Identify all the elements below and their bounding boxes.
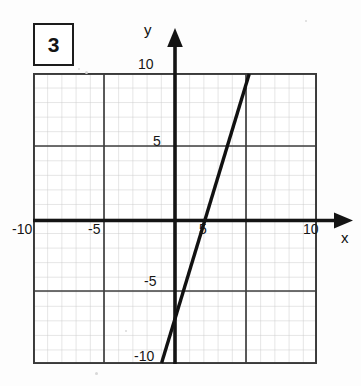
x-tick-label-10: 10 — [303, 222, 319, 236]
y-axis-arrowhead — [167, 28, 183, 47]
worksheet-page: 3 — [0, 0, 361, 386]
y-tick-label-5: 5 — [153, 134, 161, 148]
x-axis-label: x — [341, 230, 349, 245]
y-tick-label-neg5: -5 — [144, 274, 156, 288]
x-tick-label-5: 5 — [199, 222, 207, 236]
y-tick-label-10: 10 — [138, 57, 154, 71]
x-axis-arrowhead — [334, 213, 353, 229]
x-tick-label-neg5: -5 — [88, 222, 100, 236]
y-axis-label: y — [144, 22, 152, 37]
y-axis — [167, 28, 183, 364]
x-tick-label-neg10: -10 — [12, 222, 32, 236]
axes-overlay — [0, 0, 361, 386]
y-tick-label-neg10: -10 — [134, 349, 154, 363]
